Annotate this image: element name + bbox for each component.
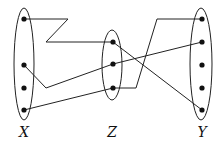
element-x4 xyxy=(21,107,26,112)
element-z1 xyxy=(110,39,115,44)
edge-x1-to-z1 xyxy=(24,19,113,42)
element-y2 xyxy=(199,39,204,44)
element-y4 xyxy=(199,85,204,90)
element-z3 xyxy=(110,85,115,90)
element-x1 xyxy=(21,16,26,21)
element-y5 xyxy=(199,107,204,112)
element-x2 xyxy=(21,62,26,67)
sets: XZY xyxy=(14,8,212,140)
set-z-label: Z xyxy=(106,124,117,140)
edge-z1-to-y5 xyxy=(113,42,202,110)
element-y1 xyxy=(199,16,204,21)
element-x3 xyxy=(21,85,26,90)
element-z2 xyxy=(110,61,115,66)
edge-x2-to-z2 xyxy=(24,64,113,88)
set-x-label: X xyxy=(18,124,30,140)
set-x: X xyxy=(14,8,34,140)
edge-z2-to-y2 xyxy=(113,42,202,64)
set-y-label: Y xyxy=(197,124,208,140)
mapping-diagram: XZY xyxy=(0,0,221,145)
element-y3 xyxy=(199,62,204,67)
edge-x4-to-z3 xyxy=(24,88,113,110)
set-y: Y xyxy=(190,8,212,140)
